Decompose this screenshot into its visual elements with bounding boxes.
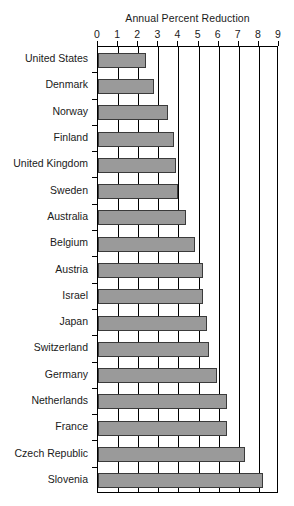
bar-chart: Annual Percent Reduction 0123456789 Unit…: [0, 0, 294, 506]
category-label: Australia: [0, 210, 88, 222]
bar-row: [98, 336, 277, 362]
x-tick-label: 4: [167, 28, 187, 40]
bar-row: [98, 100, 277, 126]
x-axis-tick-labels: 0123456789: [0, 28, 294, 42]
y-axis-category-labels: United StatesDenmarkNorwayFinlandUnited …: [0, 46, 97, 493]
bar: [98, 105, 168, 120]
bar-row: [98, 284, 277, 310]
category-label: United Kingdom: [0, 157, 88, 169]
bar: [98, 79, 154, 94]
category-label: Sweden: [0, 184, 88, 196]
bar-row: [98, 178, 277, 204]
chart-title: Annual Percent Reduction: [97, 12, 278, 24]
category-label: Belgium: [0, 236, 88, 248]
bar: [98, 289, 203, 304]
bar: [98, 473, 263, 488]
bar-row: [98, 205, 277, 231]
category-label: Czech Republic: [0, 447, 88, 459]
category-label: Switzerland: [0, 341, 88, 353]
bar: [98, 53, 146, 68]
bar: [98, 132, 174, 147]
bar: [98, 394, 227, 409]
bar-row: [98, 415, 277, 441]
x-tick-label: 5: [188, 28, 208, 40]
bar-row: [98, 231, 277, 257]
bar-row: [98, 468, 277, 494]
x-tick-label: 6: [208, 28, 228, 40]
bar-row: [98, 47, 277, 73]
x-tick-label: 3: [147, 28, 167, 40]
category-label: United States: [0, 52, 88, 64]
category-label: Finland: [0, 131, 88, 143]
bar-row: [98, 126, 277, 152]
x-tick-label: 7: [228, 28, 248, 40]
bar: [98, 447, 245, 462]
category-label: Slovenia: [0, 473, 88, 485]
category-label: Netherlands: [0, 394, 88, 406]
bar: [98, 158, 176, 173]
bar: [98, 421, 227, 436]
bar-row: [98, 152, 277, 178]
x-tick-mark: [278, 41, 279, 46]
x-tick-label: 2: [127, 28, 147, 40]
x-tick-label: 9: [268, 28, 288, 40]
category-label: Austria: [0, 263, 88, 275]
bar: [98, 342, 209, 357]
bar: [98, 210, 186, 225]
bar-row: [98, 363, 277, 389]
bar: [98, 368, 217, 383]
bar: [98, 316, 207, 331]
category-label: Germany: [0, 368, 88, 380]
bar: [98, 237, 195, 252]
plot-area: [97, 46, 278, 493]
bar-row: [98, 73, 277, 99]
x-tick-label: 0: [87, 28, 107, 40]
bar-row: [98, 441, 277, 467]
category-label: Israel: [0, 289, 88, 301]
category-label: Japan: [0, 315, 88, 327]
x-tick-label: 8: [248, 28, 268, 40]
bar-row: [98, 310, 277, 336]
bar-row: [98, 389, 277, 415]
category-label: Norway: [0, 105, 88, 117]
bar: [98, 263, 203, 278]
category-label: France: [0, 420, 88, 432]
category-label: Denmark: [0, 78, 88, 90]
bars-container: [98, 47, 277, 492]
x-tick-label: 1: [107, 28, 127, 40]
bar: [98, 184, 178, 199]
bar-row: [98, 257, 277, 283]
